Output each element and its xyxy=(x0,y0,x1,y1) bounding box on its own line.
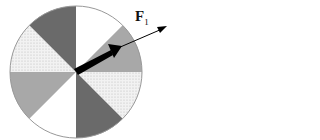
thin-arrowhead xyxy=(157,26,167,33)
vector-label-f1: F1 xyxy=(135,8,149,27)
